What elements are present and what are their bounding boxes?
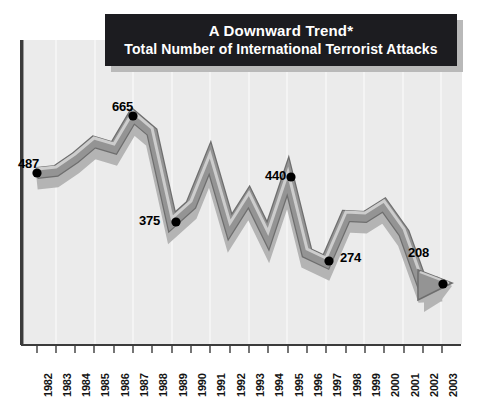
marker-1982 (32, 168, 41, 177)
ribbon-main-band (37, 112, 442, 286)
marker-1989 (171, 217, 180, 226)
title-line-1: A Downward Trend* (209, 21, 354, 40)
marker-2003 (438, 279, 447, 288)
x-axis-line (21, 344, 461, 346)
title-line-2: Total Number of International Terrorist … (124, 40, 437, 59)
marker-1997 (324, 256, 333, 265)
title-banner: A Downward Trend* Total Number of Intern… (105, 14, 457, 66)
chart-figure: 1982198319841985198619871988198919901991… (0, 0, 478, 402)
marker-1995 (286, 172, 295, 181)
marker-1987 (128, 111, 137, 120)
y-axis-line-highlight (23, 40, 24, 345)
trend-arrowhead (418, 270, 452, 312)
